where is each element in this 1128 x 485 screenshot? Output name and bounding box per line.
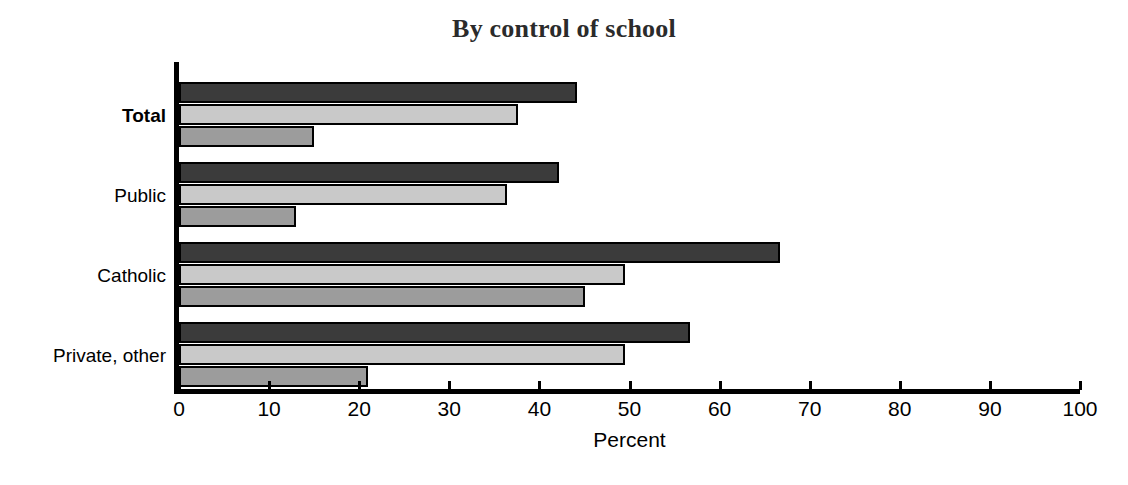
- x-tick-mark: [1079, 381, 1082, 390]
- x-tick-label: 10: [257, 397, 280, 421]
- bar: [179, 126, 314, 147]
- plot-area: [179, 62, 1080, 389]
- category-label: Private, other: [0, 346, 166, 365]
- x-tick-mark: [719, 381, 722, 390]
- category-axis-labels: TotalPublicCatholicPrivate, other: [0, 62, 166, 389]
- bar: [179, 322, 690, 343]
- x-tick-label: 100: [1062, 397, 1097, 421]
- x-axis-title: Percent: [179, 428, 1080, 452]
- chart-title: By control of school: [0, 14, 1128, 44]
- category-label: Public: [0, 186, 166, 205]
- x-tick-label: 60: [708, 397, 731, 421]
- x-tick-mark: [448, 381, 451, 390]
- x-tick-label: 20: [348, 397, 371, 421]
- x-tick-mark: [358, 381, 361, 390]
- bar: [179, 344, 625, 365]
- bar-group: [179, 82, 1080, 147]
- bar: [179, 82, 577, 103]
- x-tick-label: 40: [528, 397, 551, 421]
- bar: [179, 242, 780, 263]
- category-label: Catholic: [0, 266, 166, 285]
- x-tick-label: 90: [978, 397, 1001, 421]
- bar-group: [179, 162, 1080, 227]
- x-tick-label: 50: [618, 397, 641, 421]
- chart-figure: By control of school TotalPublicCatholic…: [0, 0, 1128, 485]
- bar: [179, 184, 507, 205]
- bar: [179, 264, 625, 285]
- bar-group: [179, 322, 1080, 387]
- x-tick-mark: [899, 381, 902, 390]
- x-tick-label: 30: [438, 397, 461, 421]
- x-tick-mark: [629, 381, 632, 390]
- bar: [179, 104, 518, 125]
- x-axis-ticks: 0102030405060708090100: [179, 389, 1080, 429]
- bar: [179, 206, 296, 227]
- x-tick-mark: [989, 381, 992, 390]
- bar: [179, 162, 559, 183]
- bar-group: [179, 242, 1080, 307]
- bar: [179, 286, 585, 307]
- x-tick-mark: [178, 381, 181, 390]
- x-tick-mark: [268, 381, 271, 390]
- x-tick-label: 70: [798, 397, 821, 421]
- category-label: Total: [0, 106, 166, 125]
- x-tick-label: 80: [888, 397, 911, 421]
- bar: [179, 366, 368, 387]
- x-tick-mark: [809, 381, 812, 390]
- x-tick-mark: [538, 381, 541, 390]
- x-tick-label: 0: [173, 397, 185, 421]
